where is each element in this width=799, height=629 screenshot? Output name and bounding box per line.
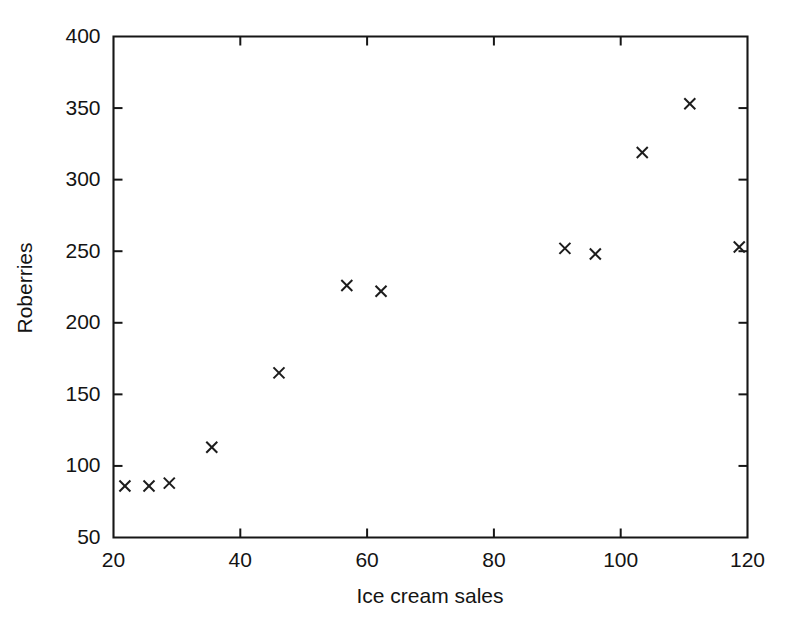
- y-axis-tick-labels: 50100150200250300350400: [65, 24, 100, 548]
- y-axis-ticks: [114, 108, 748, 466]
- x-tick-label: 20: [102, 548, 125, 571]
- data-points: [119, 98, 744, 491]
- y-tick-label: 350: [65, 96, 100, 119]
- y-tick-label: 50: [77, 525, 100, 548]
- data-point-marker: [684, 98, 695, 109]
- scatter-plot-figure: 20406080100120 50100150200250300350400 I…: [0, 0, 799, 629]
- plot-border: [114, 37, 748, 538]
- x-tick-label: 60: [355, 548, 378, 571]
- data-point-marker: [559, 243, 570, 254]
- data-point-marker: [590, 249, 601, 260]
- plot-canvas: 20406080100120 50100150200250300350400 I…: [0, 0, 799, 629]
- axis-frame: [114, 37, 748, 538]
- x-axis-tick-labels: 20406080100120: [102, 548, 765, 571]
- y-tick-label: 200: [65, 310, 100, 333]
- data-point-marker: [376, 286, 387, 297]
- y-tick-label: 250: [65, 239, 100, 262]
- x-axis-title: Ice cream sales: [356, 584, 503, 607]
- data-point-marker: [164, 478, 175, 489]
- y-tick-label: 150: [65, 382, 100, 405]
- data-point-marker: [637, 147, 648, 158]
- y-tick-label: 300: [65, 167, 100, 190]
- x-tick-label: 40: [229, 548, 252, 571]
- data-point-marker: [341, 280, 352, 291]
- data-point-marker: [206, 442, 217, 453]
- y-tick-label: 400: [65, 24, 100, 47]
- data-point-marker: [144, 480, 155, 491]
- data-point-marker: [119, 480, 130, 491]
- y-axis-title: Roberries: [13, 242, 36, 333]
- x-tick-label: 80: [482, 548, 505, 571]
- x-axis-ticks: [240, 37, 620, 538]
- x-tick-label: 100: [603, 548, 638, 571]
- x-tick-label: 120: [730, 548, 765, 571]
- data-point-marker: [273, 367, 284, 378]
- y-tick-label: 100: [65, 453, 100, 476]
